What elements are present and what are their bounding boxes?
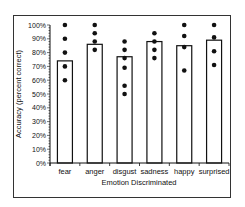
data-point	[182, 34, 187, 39]
x-tick-label: sadness	[140, 167, 168, 176]
bar	[177, 46, 192, 163]
data-point	[122, 65, 127, 70]
y-tick-label: 80%	[32, 49, 46, 56]
data-point	[152, 39, 157, 44]
y-tick-label: 20%	[32, 132, 46, 139]
data-point	[63, 64, 68, 69]
data-point	[182, 45, 187, 50]
y-axis-title: Accuracy (percent correct)	[14, 50, 23, 138]
data-point	[63, 23, 68, 28]
bars	[57, 40, 221, 163]
data-point	[63, 78, 68, 83]
data-point	[212, 23, 217, 28]
bar-chart: 0%10%20%30%40%50%60%70%80%90%100% fearan…	[0, 0, 245, 207]
data-point	[122, 56, 127, 61]
y-tick-label: 50%	[32, 91, 46, 98]
bar	[57, 61, 72, 163]
data-point	[182, 23, 187, 28]
data-point	[92, 48, 97, 53]
data-points	[63, 23, 217, 97]
x-tick-label: anger	[85, 167, 105, 176]
data-point	[63, 37, 68, 42]
data-point	[152, 56, 157, 61]
data-point	[92, 31, 97, 36]
data-point	[122, 39, 127, 44]
y-axis: 0%10%20%30%40%50%60%70%80%90%100%	[28, 22, 50, 167]
data-point	[182, 68, 187, 73]
y-tick-label: 70%	[32, 63, 46, 70]
x-tick-label: happy	[174, 167, 195, 176]
data-point	[122, 83, 127, 88]
y-tick-label: 0%	[36, 160, 46, 167]
y-tick-label: 40%	[32, 104, 46, 111]
data-point	[212, 63, 217, 68]
x-axis-title: Emotion Discriminated	[101, 178, 176, 187]
data-point	[152, 31, 157, 36]
data-point	[212, 35, 217, 40]
x-tick-label: surprised	[199, 167, 230, 176]
bar	[87, 44, 102, 163]
data-point	[122, 92, 127, 97]
y-tick-label: 90%	[32, 35, 46, 42]
data-point	[122, 48, 127, 53]
y-tick-label: 60%	[32, 77, 46, 84]
bar	[117, 57, 132, 163]
data-point	[92, 39, 97, 44]
x-tick-label: disgust	[113, 167, 138, 176]
data-point	[152, 48, 157, 53]
data-point	[212, 49, 217, 54]
bar	[207, 40, 222, 163]
y-tick-label: 30%	[32, 118, 46, 125]
x-axis: fearangerdisgustsadnesshappysurprised	[50, 163, 230, 176]
x-tick-label: fear	[58, 167, 71, 176]
data-point	[63, 50, 68, 55]
y-tick-label: 10%	[32, 146, 46, 153]
y-tick-label: 100%	[28, 22, 46, 29]
data-point	[92, 23, 97, 28]
